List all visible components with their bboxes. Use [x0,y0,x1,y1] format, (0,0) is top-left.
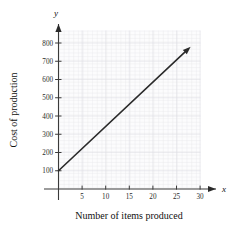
x-axis-title: Number of items produced [75,210,182,221]
y-tick-label: 300 [42,131,53,139]
y-axis-tick-labels: 100200300400500600700800 [42,40,53,176]
y-tick-label: 100 [42,167,53,175]
x-tick-label: 20 [149,193,157,201]
x-tick-label: 15 [126,193,134,201]
y-tick-label: 800 [42,40,53,48]
y-tick-label: 500 [42,94,53,102]
y-tick-label: 200 [42,149,53,157]
x-tick-label: 25 [173,193,181,201]
x-tick-label: 30 [197,193,205,201]
y-axis-title: Cost of production [8,73,19,148]
y-tick-label: 600 [42,76,53,84]
cost-of-production-chart: 51015202530 100200300400500600700800 x y… [0,0,238,233]
x-axis-arrow-icon [208,186,216,192]
y-axis-arrow-icon [55,24,61,32]
plot-area-background [60,31,201,189]
x-tick-label: 10 [102,193,110,201]
x-axis-tick-labels: 51015202530 [80,193,204,201]
x-axis-variable-label: x [221,184,226,194]
y-tick-label: 400 [42,113,53,121]
y-tick-label: 700 [42,58,53,66]
chart-canvas: 51015202530 100200300400500600700800 x y… [0,0,238,233]
x-tick-label: 5 [80,193,84,201]
y-axis-variable-label: y [53,8,58,18]
